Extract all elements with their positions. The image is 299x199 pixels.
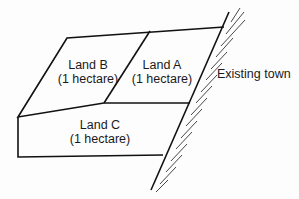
land-a-label: Land A (1 hectare) [130,58,194,86]
land-c-area: (1 hectare) [68,132,132,146]
land-b-area: (1 hectare) [56,72,120,86]
parcel-diagram [0,0,299,199]
land-b-label: Land B (1 hectare) [56,58,120,86]
town-hatching [156,8,245,192]
land-b-name: Land B [56,58,120,72]
land-c-name: Land C [68,118,132,132]
land-a-area: (1 hectare) [130,72,194,86]
existing-town-label: Existing town [217,67,291,81]
town-boundary-line [151,12,229,190]
diagram-canvas: Land B (1 hectare) Land A (1 hectare) La… [0,0,299,199]
land-a-name: Land A [130,58,194,72]
land-c-label: Land C (1 hectare) [68,118,132,146]
